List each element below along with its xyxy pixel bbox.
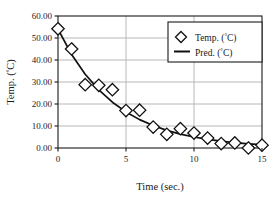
y-tick-label: 20.00 xyxy=(32,99,53,109)
y-tick-label: 60.00 xyxy=(32,11,53,21)
y-axis-title: Temp. (°C) xyxy=(5,59,18,105)
x-tick-label: 10 xyxy=(190,154,200,164)
x-tick-label: 0 xyxy=(56,154,61,164)
chart-canvas: 0.0010.0020.0030.0040.0050.0060.00 05101… xyxy=(0,0,279,198)
y-axis-title-text: Temp. ( xyxy=(5,72,17,105)
x-axis-ticks: 051015 xyxy=(56,148,267,164)
y-tick-label: 50.00 xyxy=(32,33,53,43)
legend-label-pred: Pred. (°C) xyxy=(195,47,232,59)
y-axis-title-unit: C) xyxy=(5,59,17,70)
x-tick-label: 15 xyxy=(258,154,268,164)
chart-figure: 0.0010.0020.0030.0040.0050.0060.00 05101… xyxy=(0,0,279,198)
chart-legend: Temp. (°C) Pred. (°C) xyxy=(168,22,262,62)
x-axis-title-text: Time (sec.) xyxy=(136,181,184,193)
y-tick-label: 0.00 xyxy=(36,143,52,153)
y-tick-label: 30.00 xyxy=(32,77,53,87)
y-tick-label: 10.00 xyxy=(32,121,53,131)
x-axis-title: Time (sec.) xyxy=(136,181,184,193)
legend-label-temp: Temp. (°C) xyxy=(195,32,237,44)
y-axis-ticks: 0.0010.0020.0030.0040.0050.0060.00 xyxy=(32,11,58,153)
x-tick-label: 5 xyxy=(124,154,129,164)
y-tick-label: 40.00 xyxy=(32,55,53,65)
